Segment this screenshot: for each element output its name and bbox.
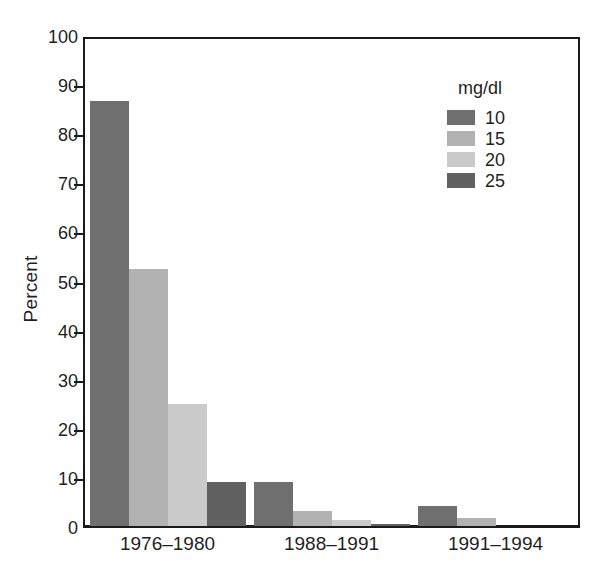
y-axis-tick-label: 0 [68, 519, 78, 537]
x-axis-tick-label: 1991–1994 [448, 534, 543, 553]
legend-swatch [447, 131, 475, 146]
y-axis-tick-mark [74, 233, 83, 235]
y-axis-tick-mark [74, 86, 83, 88]
y-axis-tick-mark [74, 184, 83, 186]
bar [457, 518, 496, 526]
y-axis-tick-label: 100 [48, 28, 78, 46]
y-axis-tick-mark [74, 283, 83, 285]
legend-label: 10 [485, 109, 505, 127]
legend-label: 25 [485, 172, 505, 190]
bar [254, 482, 293, 526]
bar [332, 520, 371, 526]
legend-entries: 10152025 [447, 108, 557, 190]
legend-swatch [447, 152, 475, 167]
y-axis-tick-mark [74, 430, 83, 432]
legend-swatch [447, 110, 475, 125]
legend-label: 20 [485, 151, 505, 169]
legend-entry: 10 [447, 108, 557, 127]
x-axis-tick-label: 1988–1991 [284, 534, 379, 553]
legend-entry: 20 [447, 150, 557, 169]
y-axis-title: Percent [14, 0, 48, 577]
legend-title: mg/dl [458, 78, 557, 99]
bar-chart-figure: Percent 0102030405060708090100 1976–1980… [0, 0, 613, 577]
bar [129, 269, 168, 526]
x-axis-tick-labels: 1976–19801988–19911991–1994 [86, 534, 578, 564]
legend-entry: 15 [447, 129, 557, 148]
y-axis-title-text: Percent [20, 255, 42, 322]
y-axis-tick-mark [74, 332, 83, 334]
bar [371, 524, 410, 526]
bar [90, 101, 129, 526]
legend-label: 15 [485, 130, 505, 148]
y-axis-tick-labels: 0102030405060708090100 [44, 37, 78, 528]
y-axis-tick-mark [74, 381, 83, 383]
bar [293, 511, 332, 526]
bar [207, 482, 246, 526]
legend: mg/dl 10152025 [447, 78, 557, 192]
legend-swatch [447, 173, 475, 188]
x-axis-tick-label: 1976–1980 [120, 534, 215, 553]
y-axis-tick-mark [74, 479, 83, 481]
legend-entry: 25 [447, 171, 557, 190]
bar [418, 506, 457, 526]
y-axis-tick-mark [74, 135, 83, 137]
bar [168, 404, 207, 526]
